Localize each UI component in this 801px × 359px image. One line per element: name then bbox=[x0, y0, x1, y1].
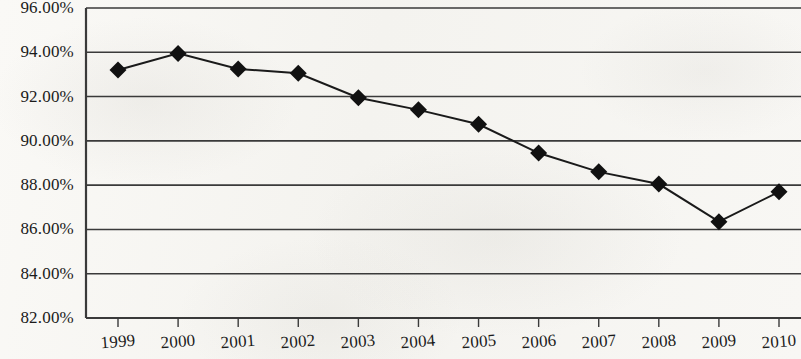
x-axis-tick-label: 2006 bbox=[520, 331, 556, 354]
line-chart: 96.00%94.00%92.00%90.00%88.00%86.00%84.0… bbox=[0, 0, 801, 359]
x-axis-tick-label: 2005 bbox=[460, 331, 496, 354]
x-axis-tick-label: 2000 bbox=[160, 331, 196, 354]
x-axis-tick-label: 2002 bbox=[280, 331, 316, 354]
x-axis-tick-label: 2010 bbox=[761, 331, 797, 354]
x-axis-tick-label: 2007 bbox=[581, 331, 617, 354]
x-axis-tick-labels: 1999200020012002200320042005200620072008… bbox=[0, 0, 801, 359]
x-axis-tick-label: 2008 bbox=[641, 331, 677, 354]
x-axis-tick-label: 2001 bbox=[220, 331, 256, 354]
x-axis-tick-label: 2004 bbox=[400, 331, 436, 354]
x-axis-tick-label: 1999 bbox=[100, 331, 136, 354]
x-axis-tick-label: 2009 bbox=[701, 331, 737, 354]
x-axis-tick-label: 2003 bbox=[340, 331, 376, 354]
